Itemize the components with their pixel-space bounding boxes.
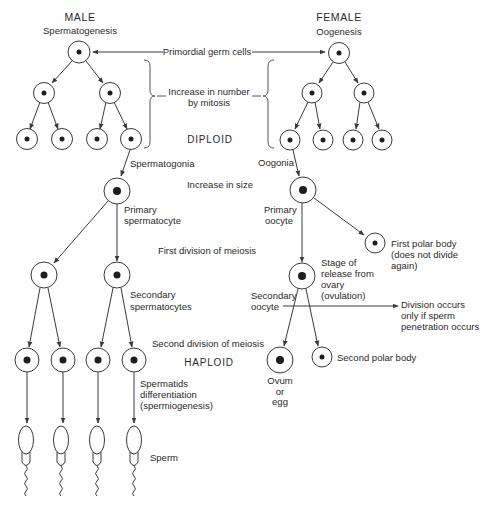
- spermatids-label-2: differentiation: [140, 389, 197, 400]
- spermatids-label-1: Spermatids: [140, 378, 188, 389]
- secondary-oocyte-label-1: Secondary: [251, 290, 297, 301]
- spermatogonium-cell: [121, 129, 142, 150]
- secondary-spermatocytes-label-2: spermatocytes: [130, 301, 192, 312]
- sperm-icon: [127, 426, 142, 496]
- release-label-1: Stage of: [321, 257, 357, 268]
- release-label-4: (ovulation): [321, 290, 365, 301]
- male-heading: MALE: [65, 11, 96, 23]
- primary-spermatocyte-label-2: spermatocyte: [124, 215, 181, 226]
- mitosis-label-line2: by mitosis: [188, 97, 230, 108]
- mitosis-cell-female: [302, 83, 322, 103]
- primordial-cell-female: [329, 43, 350, 64]
- spermatogonia-label: Spermatogonia: [130, 158, 195, 169]
- sperm-icon: [19, 426, 34, 496]
- mitosis-label-line1: Increase in number: [168, 86, 249, 97]
- primary-spermatocyte-cell: [104, 178, 130, 204]
- second-polar-body-cell: [312, 347, 332, 367]
- mitosis-cell-male: [100, 83, 121, 104]
- increase-in-size-label: Increase in size: [187, 179, 253, 190]
- first-polar-body-label-3: again): [391, 260, 417, 271]
- primary-spermatocyte-label-1: Primary: [124, 204, 157, 215]
- ovum-label-1: Ovum: [267, 375, 292, 386]
- secondary-oocyte-cell: [289, 263, 315, 289]
- oogenesis-label: Oogenesis: [316, 26, 362, 37]
- oogonia-label: Oogonia: [258, 157, 295, 168]
- spermatid-cell: [15, 348, 39, 372]
- male-mitosis-tree: [17, 41, 142, 150]
- oogonium-cell: [280, 130, 300, 150]
- primordial-cell-male: [68, 41, 90, 63]
- diploid-cell-male: [17, 129, 38, 150]
- second-meiosis-label: Second division of meiosis: [152, 338, 264, 349]
- division-occurs-label-3: penetration occurs: [401, 321, 479, 332]
- male-meiosis: Spermatogonia Primary spermatocyte Secon…: [15, 150, 213, 423]
- ovum-label-3: egg: [272, 396, 288, 407]
- sperm-cells: Sperm: [19, 426, 179, 496]
- diploid-cell-male: [87, 129, 108, 150]
- diploid-cell-male: [52, 129, 73, 150]
- spermatogenesis-label: Spermatogenesis: [43, 25, 117, 36]
- division-occurs-label-2: only if sperm: [401, 310, 455, 321]
- spermatid-cell: [122, 348, 146, 372]
- female-mitosis-tree: [280, 43, 392, 151]
- first-polar-body-label-2: (does not divide: [391, 249, 458, 260]
- spermatid-cell: [51, 348, 75, 372]
- primary-oocyte-label-1: Primary: [264, 204, 297, 215]
- spermatids-label-3: (spermiogenesis): [140, 400, 213, 411]
- second-polar-body-label: Second polar body: [337, 352, 416, 363]
- diploid-cell-female: [313, 130, 333, 150]
- gametogenesis-diagram: MALE Spermatogenesis FEMALE Oogenesis Pr…: [0, 0, 489, 511]
- female-meiosis: Oogonia Primary oocyte First polar body …: [251, 150, 479, 407]
- sperm-icon: [90, 426, 105, 496]
- primordial-germ-cells-annotation: Primordial germ cells: [93, 46, 325, 57]
- sperm-icon: [54, 426, 69, 496]
- diploid-cell-female: [343, 130, 363, 150]
- diploid-label: DIPLOID: [187, 134, 233, 145]
- first-polar-body-cell: [365, 233, 385, 253]
- ovum-cell: [267, 347, 293, 373]
- primary-oocyte-cell: [290, 177, 316, 203]
- diploid-cell-female: [372, 130, 392, 150]
- mitosis-cell-female: [354, 83, 374, 103]
- release-label-2: release from: [321, 268, 374, 279]
- release-label-3: ovary: [321, 279, 344, 290]
- secondary-spermatocyte-cell: [31, 262, 57, 288]
- first-polar-body-label-1: First polar body: [391, 238, 457, 249]
- primordial-germ-cells-label: Primordial germ cells: [163, 46, 252, 57]
- spermatid-cell: [86, 348, 110, 372]
- secondary-oocyte-label-2: oocyte: [251, 301, 279, 312]
- secondary-spermatocytes-label-1: Secondary: [130, 289, 176, 300]
- secondary-spermatocyte-cell: [104, 262, 130, 288]
- primary-oocyte-label-2: oocyte: [265, 215, 293, 226]
- mitosis-cell-male: [34, 83, 55, 104]
- sperm-label: Sperm: [150, 452, 178, 463]
- division-occurs-label-1: Division occurs: [401, 299, 465, 310]
- haploid-label: HAPLOID: [184, 357, 234, 368]
- female-heading: FEMALE: [316, 11, 362, 23]
- first-meiosis-label: First division of meiosis: [158, 245, 256, 256]
